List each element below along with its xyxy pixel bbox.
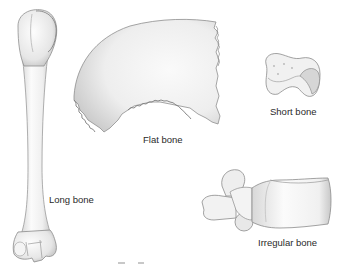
short-bone-label: Short bone	[270, 107, 316, 117]
flat-bone-illustration	[70, 16, 226, 136]
long-bone-label: Long bone	[49, 195, 94, 205]
cropped-fragment	[138, 262, 144, 264]
cropped-fragment	[118, 262, 125, 264]
long-bone-illustration	[6, 6, 62, 266]
irregular-bone-label: Irregular bone	[258, 238, 317, 248]
parietal-bone-icon	[70, 16, 226, 136]
flat-bone-label: Flat bone	[143, 135, 183, 145]
vertebra-icon	[200, 162, 334, 236]
carpal-bone-icon	[260, 50, 324, 102]
bone-types-diagram: Long bone Flat bone Short bone	[0, 0, 340, 269]
humerus-icon	[6, 6, 62, 266]
irregular-bone-illustration	[200, 162, 334, 236]
short-bone-illustration	[260, 50, 324, 102]
